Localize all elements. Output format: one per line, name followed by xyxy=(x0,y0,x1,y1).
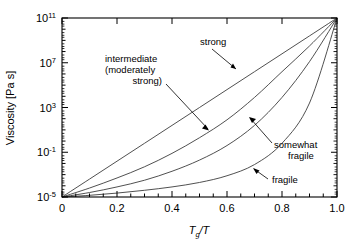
x-tick-label: 1.0 xyxy=(329,202,344,214)
x-tick-label: 0 xyxy=(59,202,65,214)
annotation-somewhat-fragile-line1: somewhat xyxy=(274,139,318,150)
y-axis-title: Viscosity [Pa s] xyxy=(4,71,16,145)
viscosity-fragility-chart: 1011 107 103 10-1 10-5 0 0.2 0.4 0.6 0.8… xyxy=(0,0,355,246)
annotation-somewhat-fragile-line2: fragile xyxy=(288,150,314,161)
x-tick-label: 0.4 xyxy=(164,202,179,214)
x-tick-label: 0.2 xyxy=(109,202,124,214)
annotation-fragile: fragile xyxy=(272,174,298,185)
x-tick-label: 0.6 xyxy=(219,202,234,214)
annotation-strong: strong xyxy=(200,36,226,47)
annotation-intermediate-line1: intermediate xyxy=(105,53,157,64)
annotation-intermediate-line2: (moderately xyxy=(105,64,155,75)
annotation-intermediate-line3: strong) xyxy=(132,75,162,86)
x-tick-label: 0.8 xyxy=(274,202,289,214)
